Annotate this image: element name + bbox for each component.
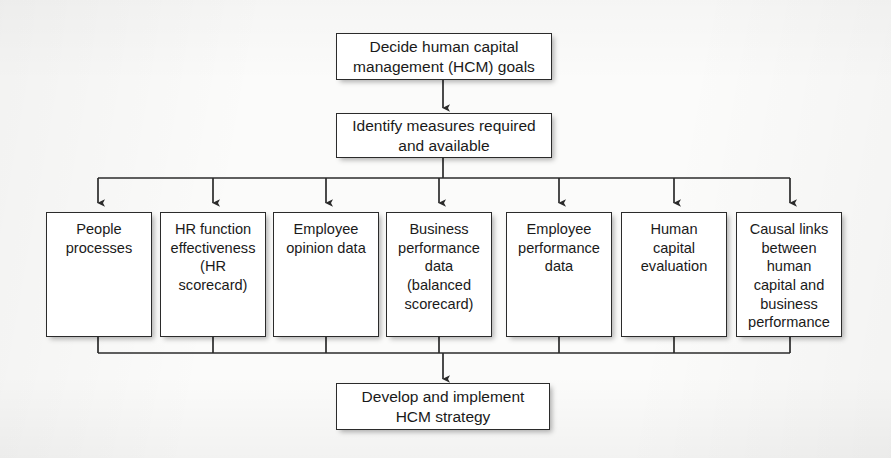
node-employee-performance-data-label: Employee performance data <box>507 213 611 276</box>
node-hr-function-effectiveness[interactable]: HR function effectiveness (HR scorecard) <box>160 212 266 337</box>
node-human-capital-evaluation-label: Human capital evaluation <box>622 213 726 276</box>
connector-bus-to-boxes <box>98 178 790 203</box>
node-identify-measures-label: Identify measures required and available <box>337 116 551 156</box>
node-employee-performance-data[interactable]: Employee performance data <box>506 212 612 337</box>
node-causal-links[interactable]: Causal links between human capital and b… <box>736 212 842 337</box>
diagram-canvas: Decide human capital management (HCM) go… <box>0 0 891 458</box>
node-hr-function-effectiveness-label: HR function effectiveness (HR scorecard) <box>161 213 265 295</box>
node-identify-measures[interactable]: Identify measures required and available <box>336 113 552 158</box>
node-employee-opinion-data-label: Employee opinion data <box>274 213 378 257</box>
node-employee-opinion-data[interactable]: Employee opinion data <box>273 212 379 337</box>
node-human-capital-evaluation[interactable]: Human capital evaluation <box>621 212 727 337</box>
connector-measures-to-bus <box>98 158 790 178</box>
node-business-performance-data[interactable]: Business performance data (balanced scor… <box>386 212 492 337</box>
connector-boxes-to-merge-bus <box>98 337 790 353</box>
node-people-processes-label: People processes <box>47 213 151 257</box>
node-develop-implement-hcm-strategy[interactable]: Develop and implement HCM strategy <box>336 383 550 430</box>
node-business-performance-data-label: Business performance data (balanced scor… <box>387 213 491 313</box>
node-causal-links-label: Causal links between human capital and b… <box>737 213 841 332</box>
node-people-processes[interactable]: People processes <box>46 212 152 337</box>
node-decide-hcm-goals[interactable]: Decide human capital management (HCM) go… <box>336 33 552 80</box>
node-develop-implement-hcm-strategy-label: Develop and implement HCM strategy <box>337 387 549 427</box>
node-decide-hcm-goals-label: Decide human capital management (HCM) go… <box>337 37 551 77</box>
